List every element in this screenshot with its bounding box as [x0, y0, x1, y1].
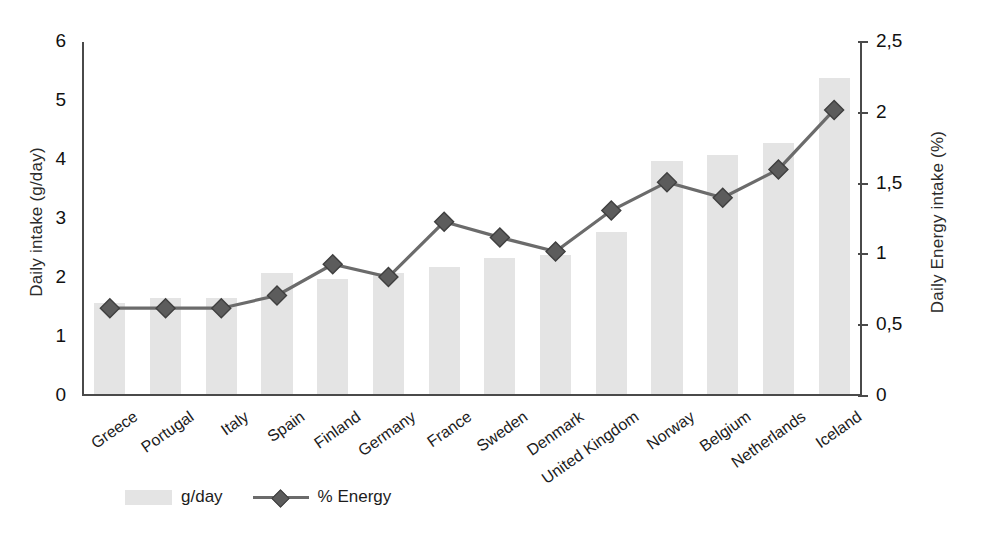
line-series	[82, 42, 862, 396]
y-axis-left-tick-label: 2	[36, 267, 66, 286]
y-axis-right-tick-label: 0,5	[876, 314, 922, 333]
y-axis-left-tick-label: 0	[36, 385, 66, 404]
y-axis-right-tick-label: 2	[876, 102, 922, 121]
data-point-marker	[156, 299, 175, 318]
y-axis-right-tick-mark	[858, 324, 868, 326]
legend-item-percent-energy[interactable]: % Energy	[253, 487, 392, 507]
y-axis-left-tick-label: 6	[36, 31, 66, 50]
y-axis-right-tick-label: 1,5	[876, 173, 922, 192]
y-axis-left-tick-label: 3	[36, 208, 66, 227]
data-point-marker	[268, 286, 287, 305]
y-axis-right-tick-label: 1	[876, 243, 922, 262]
y-axis-right-tick-mark	[858, 395, 868, 397]
legend-item-g-per-day[interactable]: g/day	[125, 487, 223, 507]
data-point-marker	[490, 228, 509, 247]
y-axis-right-tick-mark	[858, 253, 868, 255]
y-axis-right-tick-mark	[858, 41, 868, 43]
legend-label-percent-energy: % Energy	[318, 487, 392, 507]
data-point-marker	[658, 173, 677, 192]
y-axis-right-title: Daily Energy intake (%)	[928, 72, 948, 372]
y-axis-right-tick-mark	[858, 112, 868, 114]
y-axis-right-ticks: 00,511,522,5	[876, 0, 922, 557]
legend-line-marker-icon	[253, 489, 309, 505]
data-point-marker	[212, 299, 231, 318]
legend-swatch-icon	[125, 490, 172, 505]
data-point-marker	[100, 299, 119, 318]
chart-legend: g/day % Energy	[125, 487, 391, 507]
y-axis-left-tick-label: 1	[36, 326, 66, 345]
y-axis-right-tick-label: 2,5	[876, 31, 922, 50]
y-axis-right-tick-mark	[858, 183, 868, 185]
line-path	[110, 110, 834, 308]
y-axis-left-tick-label: 5	[36, 90, 66, 109]
chart-figure: Daily intake (g/day) Daily Energy intake…	[0, 0, 981, 557]
legend-label-g-per-day: g/day	[181, 487, 223, 507]
data-point-marker	[713, 188, 732, 207]
y-axis-left-tick-label: 4	[36, 149, 66, 168]
y-axis-right-tick-label: 0	[876, 385, 922, 404]
data-point-marker	[323, 255, 342, 274]
plot-area	[82, 42, 862, 396]
